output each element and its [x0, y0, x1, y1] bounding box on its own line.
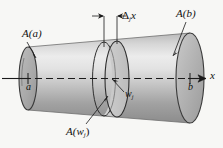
- label-left-bound: a: [26, 82, 31, 92]
- wj-subscript: j: [132, 93, 134, 100]
- awj-close: ): [86, 125, 90, 137]
- figure-solid-of-revolution: A(a) A(b) Δjx A(wj) wj a b x: [0, 0, 223, 148]
- awj-open: A(w: [66, 125, 84, 137]
- figure-canvas: [0, 0, 223, 148]
- label-right-bound: b: [188, 82, 193, 92]
- wj-variable: w: [125, 88, 132, 99]
- label-area-at-b: A(b): [176, 8, 196, 19]
- label-x-axis: x: [210, 70, 215, 81]
- label-area-at-a: A(a): [22, 28, 42, 39]
- label-area-at-wj: A(wj): [66, 126, 89, 139]
- label-slice-width: Δjx: [122, 10, 136, 23]
- delta-variable: x: [131, 9, 136, 21]
- label-sample-point: wj: [125, 89, 133, 100]
